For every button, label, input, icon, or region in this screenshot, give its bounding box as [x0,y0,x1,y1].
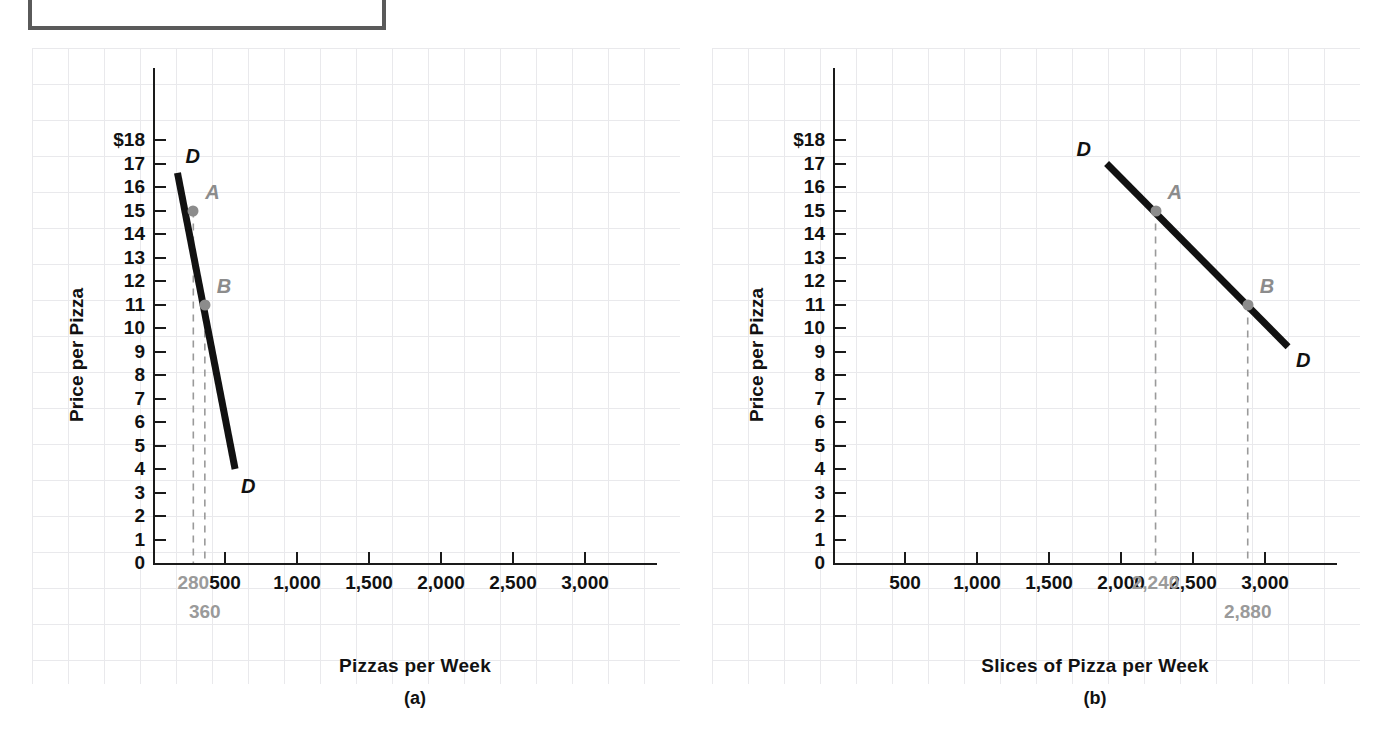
x-axis-tick [1120,552,1122,563]
y-axis-tick [155,280,166,282]
y-axis-tick [155,468,166,470]
y-tick-label: $18 [91,129,145,151]
y-axis-tick [835,421,846,423]
y-axis-title: Price per Pizza [746,287,768,421]
x-tick-label: 500 [889,572,921,594]
x-tick-label: 1,000 [273,572,321,594]
y-tick-label: 2 [91,505,145,527]
y-axis-tick [155,374,166,376]
x-tick-label: 500 [209,572,241,594]
x-tick-label: 1,500 [1025,572,1073,594]
x-tick-label: 1,500 [345,572,393,594]
panel-caption: (b) [1084,688,1107,709]
x-axis-annotation: 2,240 [1132,572,1180,594]
data-point-a [1150,205,1161,216]
x-axis-annotation: 2,880 [1224,601,1272,623]
y-tick-label: 14 [91,223,145,245]
y-tick-label: 2 [771,505,825,527]
y-tick-label: 14 [771,223,825,245]
data-point-b [199,299,210,310]
y-tick-label: 6 [91,411,145,433]
y-axis-tick [835,139,846,141]
y-axis-tick [155,304,166,306]
x-axis-title: Slices of Pizza per Week [981,655,1209,677]
y-tick-label: 4 [91,458,145,480]
x-tick-label: 2,500 [489,572,537,594]
x-axis-tick [368,552,370,563]
y-axis-title: Price per Pizza [66,287,88,421]
y-tick-label: 1 [771,529,825,551]
y-axis-tick [835,233,846,235]
y-tick-label: 5 [771,435,825,457]
demand-line [1107,164,1288,347]
x-axis-annotation: 360 [189,601,221,623]
chart-panel-b: $18171615141312111098765432105001,0001,5… [712,48,1360,684]
y-axis-tick [155,445,166,447]
panel-caption: (a) [404,688,426,709]
y-tick-label: 15 [91,200,145,222]
y-axis-tick [155,139,166,141]
y-axis-tick [155,515,166,517]
y-axis-line [153,68,155,565]
y-tick-label: 8 [771,364,825,386]
y-tick-label: 5 [91,435,145,457]
data-point-b [1242,299,1253,310]
x-axis-line [833,563,1337,565]
y-tick-label: 9 [771,341,825,363]
y-tick-label: 13 [91,247,145,269]
x-axis-tick [976,552,978,563]
y-axis-tick [155,327,166,329]
y-tick-label: 12 [91,270,145,292]
y-axis-tick [155,351,166,353]
y-axis-tick [155,163,166,165]
y-axis-tick [155,398,166,400]
plot-area-a: $18171615141312111098765432105001,0001,5… [32,48,680,684]
y-tick-label: 17 [91,153,145,175]
y-axis-tick [155,210,166,212]
x-axis-tick [296,552,298,563]
y-tick-label: 3 [91,482,145,504]
y-tick-label: 16 [91,176,145,198]
y-axis-tick [835,468,846,470]
y-tick-label: 10 [771,317,825,339]
x-axis-annotation: 280 [177,572,209,594]
x-axis-tick [512,552,514,563]
data-point-label-a: A [1168,181,1182,204]
curve-label-end: D [1296,349,1310,372]
y-axis-tick [835,351,846,353]
y-tick-label: 9 [91,341,145,363]
data-point-a [188,205,199,216]
x-tick-label: 2,000 [417,572,465,594]
y-tick-label: 7 [771,388,825,410]
x-axis-tick [1192,552,1194,563]
y-tick-label: 8 [91,364,145,386]
y-tick-label: 16 [771,176,825,198]
figure-root: $18171615141312111098765432105001,0001,5… [0,0,1392,729]
y-axis-tick [835,304,846,306]
y-tick-label: 4 [771,458,825,480]
x-axis-tick [904,552,906,563]
curve-label-start: D [185,145,199,168]
y-tick-label: 7 [91,388,145,410]
y-axis-tick [835,515,846,517]
y-axis-tick [835,327,846,329]
y-tick-label: 17 [771,153,825,175]
y-tick-label: 3 [771,482,825,504]
y-axis-tick [155,539,166,541]
top-empty-box [28,0,386,30]
x-tick-label: 3,000 [1241,572,1289,594]
x-axis-tick [1048,552,1050,563]
y-axis-tick [155,186,166,188]
y-axis-line [833,68,835,565]
y-axis-tick [835,186,846,188]
y-axis-tick [835,374,846,376]
y-axis-tick [835,445,846,447]
y-axis-tick [835,163,846,165]
y-axis-tick [155,421,166,423]
y-axis-tick [835,492,846,494]
y-axis-tick [835,210,846,212]
y-tick-label: $18 [771,129,825,151]
y-tick-label: 0 [771,552,825,574]
data-point-label-b: B [217,275,231,298]
y-tick-label: 6 [771,411,825,433]
